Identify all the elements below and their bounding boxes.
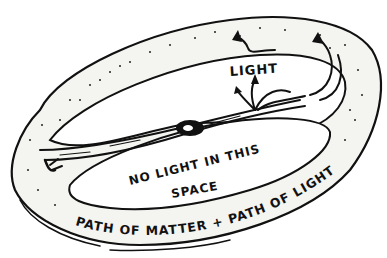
twisted-band-diagram: LIGHT NO LIGHT IN THIS SPACE PATH OF MAT… bbox=[0, 0, 387, 258]
knot-highlight bbox=[183, 125, 193, 131]
